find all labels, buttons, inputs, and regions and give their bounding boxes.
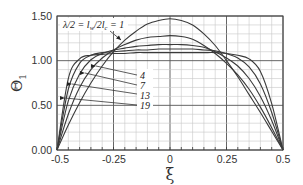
y-tick-0: 0.00 xyxy=(32,144,53,156)
x-axis-title: ξ xyxy=(166,165,175,184)
y-tick-100: 1.00 xyxy=(32,54,53,66)
chart: 0.00 0.50 1.00 1.50 -0.5 -0.25 0 0.25 0.… xyxy=(0,0,303,185)
annotation-lambda: λ/2 = lw/2lc = 1 xyxy=(62,19,124,31)
x-tick-025: 0.25 xyxy=(217,153,238,165)
x-tick-neg025: -0.25 xyxy=(102,153,126,165)
x-tick-neg050: -0.5 xyxy=(51,153,69,165)
x-tick-0: 0 xyxy=(167,153,173,165)
svg-text:Θ1: Θ1 xyxy=(8,74,28,92)
y-axis-title-main: Θ xyxy=(8,80,26,92)
curve-label-19: 19 xyxy=(140,100,150,111)
x-tick-050: 0.5 xyxy=(276,153,291,165)
y-tick-150: 1.50 xyxy=(32,10,53,22)
y-axis-title-sub: 1 xyxy=(18,74,28,80)
curve-leaders xyxy=(60,64,137,105)
y-axis-title: Θ1 xyxy=(8,74,28,92)
y-tick-050: 0.50 xyxy=(32,99,53,111)
